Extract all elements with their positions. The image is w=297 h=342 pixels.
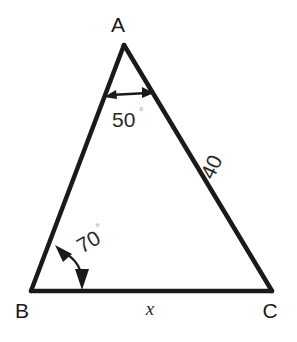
angle-a-degree-symbol: °: [139, 105, 143, 117]
side-ac-length-label: 40: [196, 151, 227, 182]
side-ab-line: [31, 45, 124, 291]
vertex-label-c: C: [262, 299, 277, 322]
angle-a-arrow-marker: [104, 87, 154, 99]
side-ac-label-group: 40: [196, 151, 227, 182]
vertex-label-a: A: [111, 13, 125, 36]
angle-a-value: 50: [112, 108, 135, 131]
angle-b-arrowhead-lower: [75, 269, 89, 290]
angle-b-arrowhead-upper: [55, 245, 72, 262]
angle-b-label-group: 70 °: [71, 221, 110, 258]
angle-a-label-group: 50 °: [112, 105, 143, 131]
triangle-figure-svg: A B C 50 ° 70 ° 40 x: [0, 0, 297, 342]
vertex-label-b: B: [15, 299, 29, 322]
side-bc-length-label: x: [145, 298, 155, 319]
triangle-diagram: A B C 50 ° 70 ° 40 x: [0, 0, 297, 342]
